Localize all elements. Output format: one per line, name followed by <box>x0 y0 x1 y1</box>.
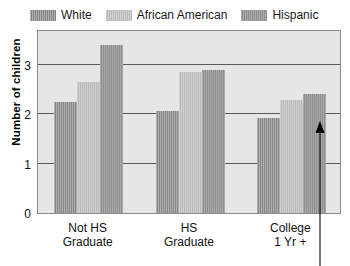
legend-swatch-hispanic <box>241 10 267 21</box>
x-tick-line2-2: 1 Yr + <box>230 235 350 249</box>
y-tick-1: 1 <box>5 159 31 171</box>
bar-chart: White African American Hispanic Number o… <box>0 0 350 266</box>
bar-hispanic-0 <box>100 45 123 213</box>
chart-legend: White African American Hispanic <box>30 6 332 24</box>
y-axis-title: Number of children <box>10 32 22 152</box>
plot-area <box>37 30 341 214</box>
legend-swatch-african-american <box>106 10 132 21</box>
plot-inner <box>38 31 340 213</box>
y-tick-3: 3 <box>5 60 31 72</box>
legend-item-hispanic: Hispanic <box>241 9 318 21</box>
x-tick-group-2: College1 Yr + <box>230 221 350 249</box>
bar-white-2 <box>257 118 280 213</box>
bar-white-0 <box>54 102 77 213</box>
legend-label-white: White <box>61 9 92 21</box>
bar-african-american-0 <box>77 82 100 213</box>
y-tick-0: 0 <box>5 208 31 220</box>
bar-hispanic-1 <box>202 70 225 213</box>
gridline-3 <box>38 64 340 65</box>
legend-item-white: White <box>30 9 92 21</box>
x-tick-line1-2: College <box>230 221 350 235</box>
bar-white-1 <box>156 111 179 213</box>
bar-african-american-1 <box>179 72 202 213</box>
legend-label-hispanic: Hispanic <box>272 9 318 21</box>
legend-item-african-american: African American <box>106 9 228 21</box>
legend-label-african-american: African American <box>137 9 228 21</box>
legend-swatch-white <box>30 10 56 21</box>
y-tick-2: 2 <box>5 109 31 121</box>
bar-african-american-2 <box>280 100 303 213</box>
bar-hispanic-2 <box>303 94 326 213</box>
